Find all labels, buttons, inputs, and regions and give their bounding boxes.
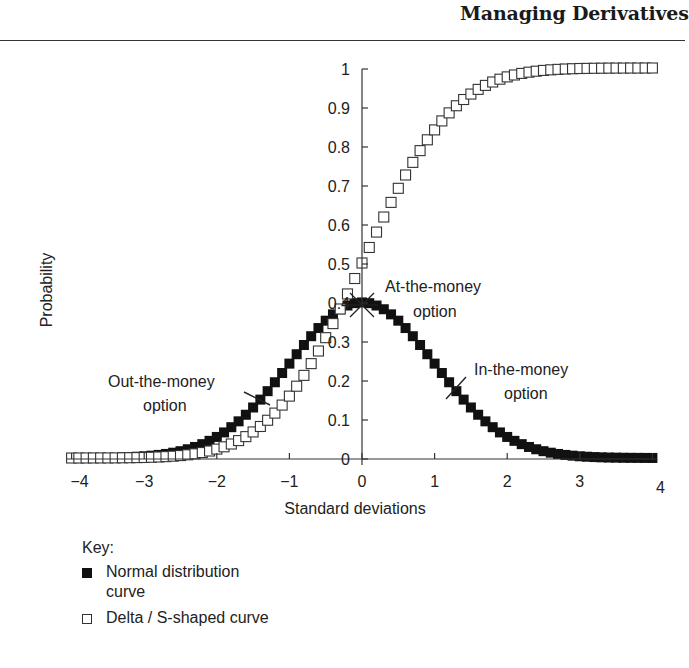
x-tick-label: 2: [503, 473, 512, 490]
x-axis-title: Standard deviations: [284, 500, 425, 517]
filled-square-icon: [82, 568, 92, 578]
x-tick-label: 4: [656, 479, 665, 496]
open-marker: [328, 319, 338, 329]
filled-marker: [284, 359, 294, 369]
y-tick-label: 0.1: [328, 412, 350, 429]
filled-marker: [299, 340, 309, 350]
chart-key: Key: Normal distributioncurve Delta / S-…: [82, 538, 366, 634]
filled-marker: [270, 377, 280, 387]
open-marker: [415, 146, 425, 156]
annotation-in-the-money: In-the-money: [474, 361, 568, 378]
y-tick-label: 0.2: [328, 373, 350, 390]
open-marker: [350, 274, 360, 284]
annotation-at-the-money: option: [413, 303, 457, 320]
filled-marker: [277, 368, 287, 378]
open-marker: [284, 391, 294, 401]
x-tick-label: −2: [208, 473, 226, 490]
filled-marker: [444, 377, 454, 387]
open-marker: [372, 227, 382, 237]
y-tick-label: 0.8: [328, 139, 350, 156]
annotation-out-the-money: option: [143, 397, 187, 414]
key-label-normal: Normal distributioncurve: [106, 562, 266, 602]
open-marker: [306, 359, 316, 369]
open-marker: [393, 183, 403, 193]
open-marker: [379, 212, 389, 222]
open-marker: [422, 135, 432, 145]
y-tick-label: 0.6: [328, 217, 350, 234]
filled-marker: [263, 386, 273, 396]
open-marker: [386, 197, 396, 207]
y-tick-label: 0.3: [328, 334, 350, 351]
open-marker: [313, 346, 323, 356]
key-item-normal: Normal distributioncurve: [82, 562, 366, 602]
key-title: Key:: [82, 538, 366, 558]
filled-marker: [415, 340, 425, 350]
open-marker: [408, 157, 418, 167]
x-tick-label: −1: [280, 473, 298, 490]
open-marker: [401, 170, 411, 180]
filled-marker: [437, 368, 447, 378]
x-tick-label: −3: [135, 473, 153, 490]
filled-marker: [408, 331, 418, 341]
open-marker: [647, 63, 657, 73]
chart: 00.10.20.30.40.50.60.70.80.91−4−3−2−1012…: [0, 0, 685, 530]
open-marker: [299, 370, 309, 380]
key-item-delta: Delta / S-shaped curve: [82, 608, 366, 628]
y-tick-label: 1: [341, 61, 350, 78]
x-tick-label: 0: [358, 473, 367, 490]
open-square-icon: [82, 614, 92, 624]
open-marker: [364, 242, 374, 252]
annotation-at-the-money: At-the-money: [385, 278, 481, 295]
y-tick-label: 0.5: [328, 256, 350, 273]
y-tick-label: 0.4: [328, 295, 350, 312]
y-tick-label: 0: [341, 451, 350, 468]
key-label-delta: Delta / S-shaped curve: [106, 608, 366, 628]
x-tick-label: 1: [430, 473, 439, 490]
filled-marker: [430, 359, 440, 369]
annotation-out-the-money: Out-the-money: [108, 373, 215, 390]
x-tick-label: −4: [70, 473, 88, 490]
filled-marker: [422, 349, 432, 359]
y-axis-title: Probability: [38, 253, 55, 328]
filled-marker: [292, 349, 302, 359]
annotation-in-the-money: option: [504, 385, 548, 402]
y-tick-label: 0.7: [328, 178, 350, 195]
tick-labels: 00.10.20.30.40.50.60.70.80.91−4−3−2−1012…: [70, 61, 664, 496]
y-tick-label: 0.9: [328, 100, 350, 117]
x-tick-label: 3: [575, 473, 584, 490]
open-marker: [292, 381, 302, 391]
